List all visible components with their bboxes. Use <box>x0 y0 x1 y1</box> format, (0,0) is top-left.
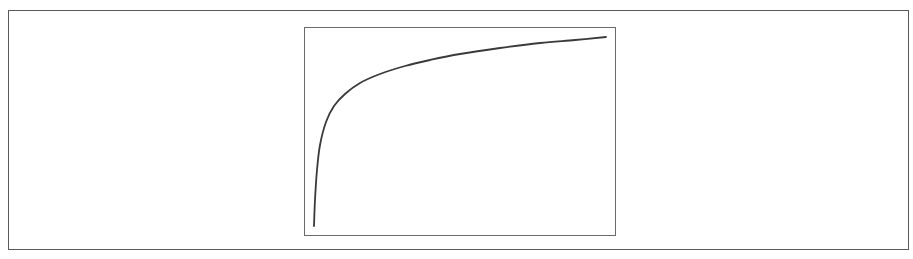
plot-box <box>304 27 616 236</box>
